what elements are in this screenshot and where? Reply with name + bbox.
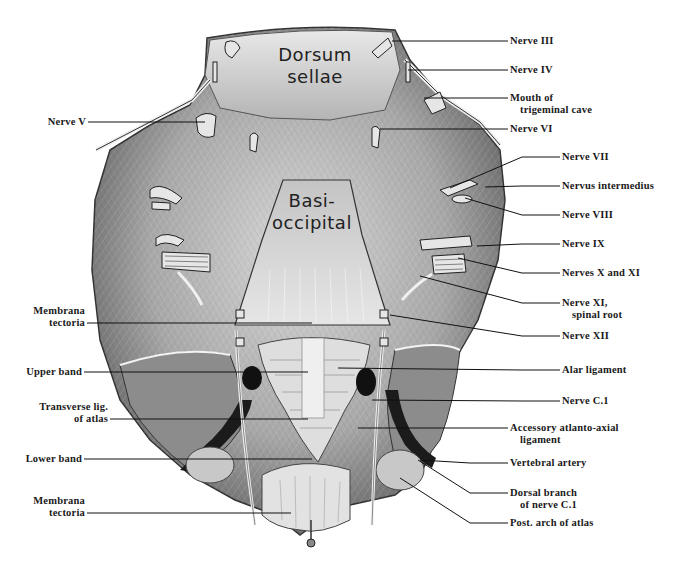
retractor-pin — [307, 539, 315, 547]
label-line: tectoria — [33, 317, 85, 329]
label-alar-ligament: Alar ligament — [562, 364, 627, 376]
label-line: Membrana — [33, 305, 85, 317]
label-nerve-iv: Nerve IV — [510, 64, 553, 76]
label-line: Nerve VII — [562, 151, 609, 163]
label-nerves-x-xi: Nerves X and XI — [562, 267, 640, 279]
label-line: Nerve IV — [510, 64, 553, 76]
inscription-line-1: Dorsum — [260, 44, 370, 66]
label-line: Nerve C.1 — [562, 395, 609, 407]
label-nerve-vii: Nerve VII — [562, 151, 609, 163]
label-vertebral-artery: Vertebral artery — [510, 457, 587, 469]
label-line: Membrana — [33, 495, 85, 507]
label-line: Nerve VI — [510, 123, 553, 135]
label-nerve-v: Nerve V — [48, 116, 86, 128]
label-nerve-xi-spinal: Nerve XI,spinal root — [562, 297, 622, 321]
label-line: Nerve VIII — [562, 209, 613, 221]
label-nerve-iii: Nerve III — [510, 35, 554, 47]
label-line: Accessory atlanto-axial — [510, 422, 619, 434]
label-lower-band: Lower band — [26, 453, 82, 465]
alar-stump-left — [242, 366, 262, 390]
label-nervus-intermedius: Nervus intermedius — [562, 180, 654, 192]
label-upper-band: Upper band — [26, 366, 82, 378]
inscription-line-2: sellae — [260, 66, 370, 88]
label-line: Alar ligament — [562, 364, 627, 376]
label-line: Nerve IX — [562, 238, 605, 250]
label-line: spinal root — [562, 309, 622, 321]
label-line: tectoria — [33, 507, 85, 519]
label-line: ligament — [510, 434, 619, 446]
label-line: Nerve XII — [562, 330, 609, 342]
label-line: Nervus intermedius — [562, 180, 654, 192]
label-line: Vertebral artery — [510, 457, 587, 469]
label-line: Mouth of — [510, 92, 592, 104]
label-line: Nerve III — [510, 35, 554, 47]
label-line: Transverse lig. — [39, 401, 108, 413]
membrana-tectoria-lower — [262, 464, 350, 532]
label-nerve-xii: Nerve XII — [562, 330, 609, 342]
label-mouth-trigeminal-cave: Mouth oftrigeminal cave — [510, 92, 592, 116]
dorsum-sellae-inscription: Dorsum sellae — [260, 44, 370, 88]
basi-occipital-inscription: Basi- occipital — [262, 190, 362, 234]
label-line: Nerve XI, — [562, 297, 622, 309]
label-nerve-vi: Nerve VI — [510, 123, 553, 135]
label-line: Dorsal branch — [510, 487, 577, 499]
label-membrana-tectoria-lower: Membranatectoria — [33, 495, 85, 519]
inscription-line-2: occipital — [262, 212, 362, 234]
label-accessory-atlanto-axial: Accessory atlanto-axialligament — [510, 422, 619, 446]
label-line: Nerve V — [48, 116, 86, 128]
label-line: Upper band — [26, 366, 82, 378]
label-dorsal-branch-c1: Dorsal branchof nerve C.1 — [510, 487, 577, 511]
post-arch-left — [186, 447, 234, 483]
label-membrana-tectoria-upper: Membranatectoria — [33, 305, 85, 329]
label-line: Post. arch of atlas — [510, 517, 594, 529]
label-line: Lower band — [26, 453, 82, 465]
label-nerve-viii: Nerve VIII — [562, 209, 613, 221]
label-nerve-ix: Nerve IX — [562, 238, 605, 250]
label-line: of atlas — [39, 413, 108, 425]
label-post-arch-atlas: Post. arch of atlas — [510, 517, 594, 529]
alar-stump-right — [356, 368, 376, 396]
post-arch-right — [376, 450, 424, 490]
label-line: Nerves X and XI — [562, 267, 640, 279]
label-line: of nerve C.1 — [510, 499, 577, 511]
inscription-line-1: Basi- — [262, 190, 362, 212]
label-transverse-lig-atlas: Transverse lig.of atlas — [39, 401, 108, 425]
label-nerve-c1: Nerve C.1 — [562, 395, 609, 407]
label-line: trigeminal cave — [510, 104, 592, 116]
